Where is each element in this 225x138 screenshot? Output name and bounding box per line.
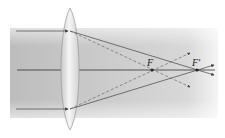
focus-point-f-prime xyxy=(195,68,198,71)
focus-label-f: F xyxy=(146,57,154,68)
diagram-canvas: F F′ xyxy=(0,0,225,138)
lens-diagram: F F′ xyxy=(0,0,225,138)
focus-point-f xyxy=(150,68,153,71)
focus-label-f-prime: F′ xyxy=(191,57,201,68)
